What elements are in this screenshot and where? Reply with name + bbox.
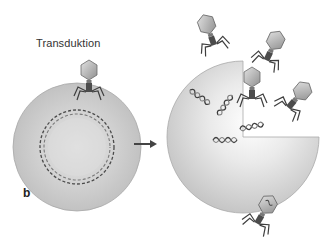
infected-cell bbox=[13, 83, 141, 211]
phage-icon bbox=[249, 25, 293, 74]
lysed-cell bbox=[167, 61, 319, 213]
phage-icon bbox=[272, 74, 321, 124]
phage-icon bbox=[189, 10, 231, 58]
transduction-diagram bbox=[0, 0, 324, 243]
